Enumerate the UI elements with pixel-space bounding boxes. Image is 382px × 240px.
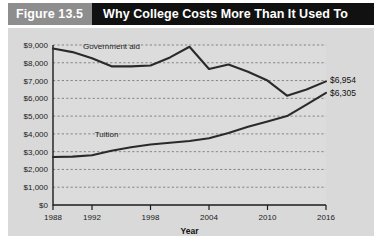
figure-container: Figure 13.5 Why College Costs More Than … — [0, 0, 382, 240]
x-axis-tick-label: 2016 — [317, 213, 335, 222]
y-axis-tick-label: $5,000 — [24, 112, 49, 121]
x-axis-tick-label: 1992 — [83, 213, 101, 222]
end-value-tuition: $6,305 — [330, 88, 356, 98]
y-axis-tick-label: $1,000 — [24, 183, 49, 192]
figure-header: Figure 13.5 Why College Costs More Than … — [8, 3, 374, 25]
y-axis-tick-label: $2,000 — [24, 165, 49, 174]
x-axis-tick-label: 2004 — [200, 213, 218, 222]
series-label-tuition: Tuition — [95, 130, 119, 139]
y-axis-tick-label: $0 — [39, 201, 48, 210]
x-axis-tick-label: 2010 — [259, 213, 277, 222]
x-axis-tick-label: 1988 — [44, 213, 62, 222]
end-value-government-aid: $6,954 — [330, 75, 356, 85]
x-axis-tick-marks — [53, 205, 326, 210]
y-axis-tick-label: $3,000 — [24, 148, 49, 157]
figure-number-label: Figure 13.5 — [8, 3, 92, 25]
y-axis-tick-labels: $0$1,000$2,000$3,000$4,000$5,000$6,000$7… — [24, 41, 49, 210]
x-axis-tick-label: 1998 — [142, 213, 160, 222]
series-label-government-aid: Government aid — [83, 42, 140, 51]
y-axis-tick-label: $4,000 — [24, 130, 49, 139]
y-axis-tick-label: $6,000 — [24, 94, 49, 103]
x-axis-tick-labels: 198819921998200420102016 — [44, 213, 335, 222]
y-axis-tick-label: $8,000 — [24, 59, 49, 68]
chart-panel: $0$1,000$2,000$3,000$4,000$5,000$6,000$7… — [8, 28, 374, 236]
line-chart: $0$1,000$2,000$3,000$4,000$5,000$6,000$7… — [8, 28, 374, 236]
y-axis-tick-label: $9,000 — [24, 41, 49, 50]
plot-background — [53, 45, 326, 205]
y-axis-tick-label: $7,000 — [24, 77, 49, 86]
figure-title: Why College Costs More Than It Used To — [92, 3, 374, 25]
x-axis-title: Year — [181, 226, 200, 236]
